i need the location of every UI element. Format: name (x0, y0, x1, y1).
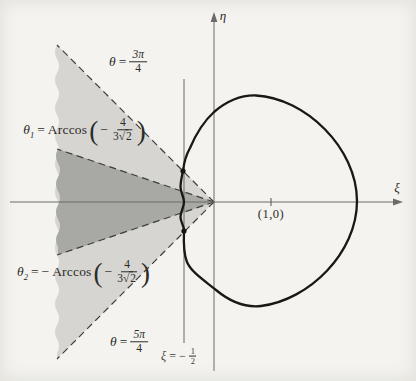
right-paren: ) (141, 259, 150, 285)
ray-label-theta-3pi-4: θ = 3π 4 (109, 48, 147, 75)
xi-axis-label: ξ (394, 180, 400, 196)
left-paren: ( (94, 259, 103, 285)
eta-axis-arrow-icon (211, 12, 218, 22)
intersection-dot-lower (181, 228, 186, 233)
vline-label-xi-neg-half: ξ = − 1 2 (161, 347, 197, 366)
ray-label-theta-5pi-4: θ = 5π 4 (110, 328, 148, 355)
textbook-figure: η ξ (1,0) θ = 3π 4 θ1 = Arccos ( − 4 3√2… (0, 0, 416, 381)
intersection-dot-upper (180, 168, 185, 173)
left-paren: ( (89, 117, 98, 143)
xi-axis-arrow-icon (393, 199, 403, 206)
eta-axis-label: η (220, 8, 226, 24)
ray-label-theta-2: θ2 = − Arccos ( − 4 3√2 ) (17, 258, 149, 285)
figure-canvas (0, 0, 416, 381)
right-paren: ) (137, 117, 146, 143)
point-1-0-label: (1,0) (258, 207, 284, 222)
ray-label-theta-1: θ1 = Arccos ( − 4 3√2 ) (23, 116, 144, 143)
